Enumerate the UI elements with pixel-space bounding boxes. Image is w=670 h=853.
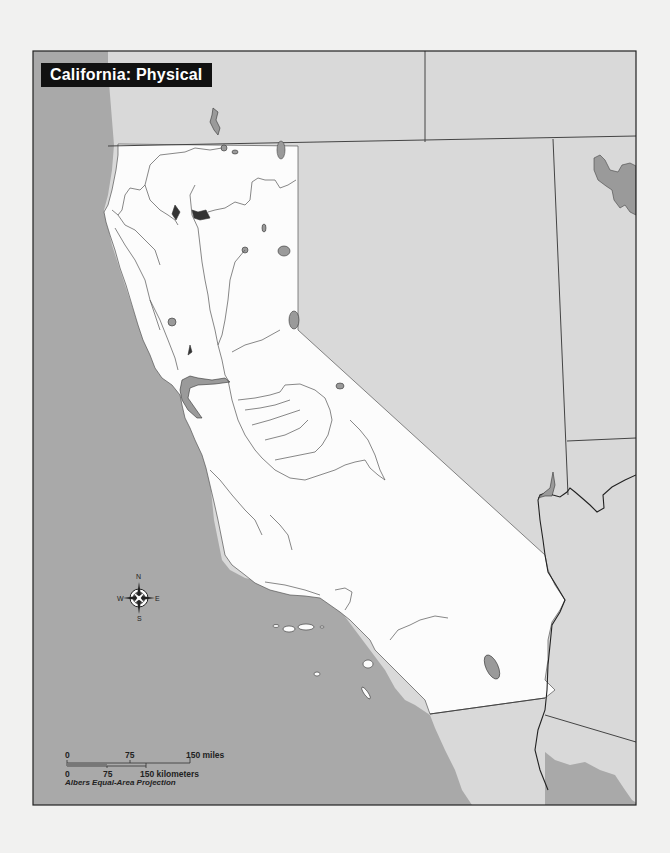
mono-lake	[336, 383, 344, 389]
lake-tahoe	[289, 311, 299, 329]
compass-south-label: S	[137, 615, 142, 622]
projection-label: Albers Equal-Area Projection	[65, 778, 176, 787]
scale-miles-mid: 75	[125, 750, 134, 760]
compass-north-label: N	[136, 573, 141, 580]
compass-east-label: E	[155, 595, 160, 602]
scale-miles-start: 0	[65, 750, 70, 760]
compass-west-label: W	[117, 595, 124, 602]
eagle-lake	[262, 224, 266, 232]
goose-lake	[277, 141, 285, 159]
honey-lake	[278, 246, 290, 256]
lower-klamath-lake	[232, 150, 238, 154]
map-frame: California: Physical N S W E 0 75 150 mi…	[0, 0, 670, 853]
scale-miles-end: 150 miles	[186, 750, 224, 760]
california-physical-map	[0, 0, 670, 853]
clear-lake	[168, 318, 176, 326]
map-title: California: Physical	[41, 63, 212, 87]
